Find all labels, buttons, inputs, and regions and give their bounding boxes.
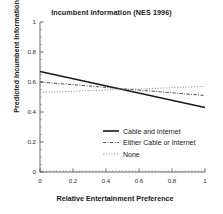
x-tick-label: 0.6 bbox=[135, 177, 144, 184]
plot-area: 00.20.40.60.81 00.20.40.60.81 Cable and … bbox=[0, 0, 223, 214]
x-tick-label: 0.4 bbox=[102, 177, 111, 184]
y-tick-label: 0.6 bbox=[27, 78, 36, 85]
y-tick-label: 0.2 bbox=[27, 138, 36, 145]
legend-label: None bbox=[123, 151, 140, 158]
y-tick-label: 1 bbox=[33, 18, 37, 25]
chart-legend: Cable and InternetEither Cable or Intern… bbox=[103, 128, 195, 158]
x-tick-label: 1 bbox=[203, 177, 207, 184]
x-tick-label: 0 bbox=[38, 177, 42, 184]
y-tick-label: 0.4 bbox=[27, 108, 36, 115]
data-series-group bbox=[40, 72, 205, 108]
series-line bbox=[40, 72, 205, 108]
y-tick-label: 0.8 bbox=[27, 48, 36, 55]
chart-figure: Incumbent Information (NES 1996) Predict… bbox=[0, 0, 223, 214]
y-tick-label: 0 bbox=[33, 168, 37, 175]
x-tick-label: 0.8 bbox=[168, 177, 177, 184]
x-tick-label: 0.2 bbox=[69, 177, 78, 184]
legend-label: Either Cable or Internet bbox=[123, 139, 195, 146]
legend-label: Cable and Internet bbox=[123, 128, 181, 135]
